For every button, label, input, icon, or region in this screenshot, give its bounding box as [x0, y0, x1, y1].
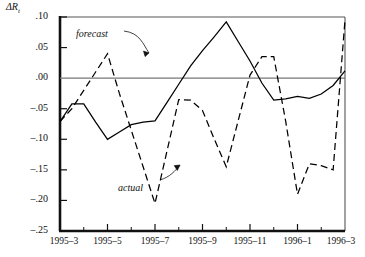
series-line-actual — [60, 20, 345, 203]
series-line-forecast — [60, 22, 345, 139]
plot-area — [0, 0, 365, 257]
chart-container: ΔRt .10.05.00–.05–.10–.15–.20–.25 1995–3… — [0, 0, 365, 257]
forecast-arrow-curve — [124, 31, 149, 53]
actual-arrow-head — [174, 165, 180, 171]
